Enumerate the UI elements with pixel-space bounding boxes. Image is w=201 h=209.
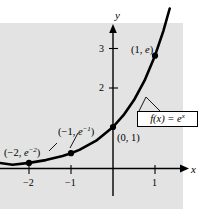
callout-close: ) = (161, 113, 177, 124)
point-label-neg1: (−1, e−1) (58, 127, 94, 138)
exponential-curve (0, 9, 170, 165)
ytick-label-3: 3 (99, 44, 104, 54)
curve-points (26, 53, 158, 166)
x-axis-label: x (191, 164, 196, 175)
function-callout-box: f(x) = ex (137, 111, 198, 127)
exponential-function-figure: y x 3 2 −2 −1 1 (1, e) (−1, e−1) (−2, e−… (0, 0, 201, 209)
ytick-label-2: 2 (99, 83, 104, 93)
point-label-neg1-exp: −1 (83, 125, 91, 133)
point-label-origin: (0, 1) (117, 133, 140, 144)
point-neg1 (68, 150, 74, 156)
callout-pointer (139, 97, 160, 111)
point-label-1e-close: ) (150, 44, 154, 55)
point-label-neg2: (−2, e−2) (4, 148, 40, 159)
point-label-1e: (1, e) (131, 45, 153, 56)
xtick-label-neg2: −2 (23, 178, 34, 188)
y-axis-label: y (115, 10, 120, 21)
callout-exp: x (182, 111, 185, 119)
xtick-label-1: 1 (152, 178, 157, 188)
point-label-neg1-close: ) (91, 126, 95, 137)
point-origin (110, 124, 116, 130)
function-callout-text: f(x) = ex (150, 114, 185, 125)
leader-neg2 (49, 143, 57, 151)
point-label-neg2-exp: −2 (29, 146, 37, 154)
xtick-label-neg1: −1 (65, 178, 76, 188)
point-label-neg2-close: ) (37, 147, 41, 158)
point-label-1e-open: (1, (131, 44, 145, 55)
point-neg2 (26, 160, 32, 166)
point-label-neg2-x: −2 (8, 147, 19, 158)
y-axis (109, 24, 117, 196)
point-label-neg1-x: −1 (62, 126, 73, 137)
